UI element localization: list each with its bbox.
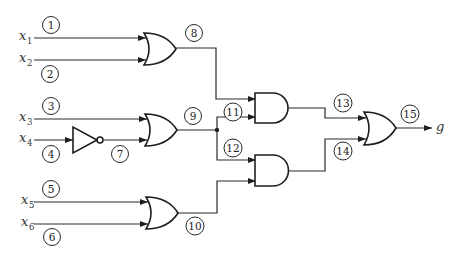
input-label-x1: x 1 <box>19 28 32 46</box>
svg-text:13: 13 <box>336 97 349 109</box>
line-label-5: 5 <box>43 181 60 198</box>
input-label-x3: x 3 <box>19 109 32 127</box>
svg-text:5: 5 <box>29 200 34 210</box>
svg-text:7: 7 <box>117 148 124 160</box>
or-gate-4 <box>364 112 396 145</box>
or-gate-2 <box>145 114 177 146</box>
input-label-x2: x 2 <box>19 50 32 68</box>
svg-text:11: 11 <box>226 106 239 118</box>
svg-text:x: x <box>19 109 27 124</box>
wire-14 <box>287 139 366 171</box>
line-label-9: 9 <box>185 108 202 125</box>
input-label-x5: x 5 <box>21 192 34 210</box>
line-label-15: 15 <box>401 105 419 123</box>
svg-text:3: 3 <box>48 100 55 112</box>
not-gate <box>73 127 97 153</box>
svg-text:3: 3 <box>27 117 32 127</box>
svg-text:14: 14 <box>336 145 350 157</box>
svg-text:9: 9 <box>190 110 197 122</box>
line-label-3: 3 <box>43 98 60 115</box>
and-gate-2 <box>255 155 289 186</box>
svg-text:6: 6 <box>29 222 34 232</box>
line-label-13: 13 <box>334 94 352 112</box>
wire-10 <box>177 181 256 213</box>
svg-text:6: 6 <box>49 231 56 243</box>
svg-text:15: 15 <box>403 108 416 120</box>
svg-text:x: x <box>19 28 27 43</box>
svg-text:1: 1 <box>48 19 55 31</box>
line-label-10: 10 <box>186 217 204 235</box>
line-label-11: 11 <box>224 103 242 121</box>
svg-text:x: x <box>19 130 27 145</box>
or-gate-3 <box>146 197 178 229</box>
wire-8 <box>175 48 256 99</box>
logic-circuit-diagram: x 1 x 2 x 3 x 4 x 5 x 6 1 2 3 4 5 <box>0 0 458 262</box>
input-label-x6: x 6 <box>21 214 34 232</box>
svg-text:x: x <box>21 214 29 229</box>
svg-text:12: 12 <box>226 142 239 154</box>
line-label-1: 1 <box>43 17 60 34</box>
line-label-12: 12 <box>224 139 242 157</box>
svg-text:8: 8 <box>191 27 198 39</box>
input-label-x4: x 4 <box>19 130 32 148</box>
output-label-g: g <box>436 119 444 134</box>
svg-text:4: 4 <box>27 138 32 148</box>
line-label-8: 8 <box>186 25 203 42</box>
line-label-14: 14 <box>334 142 352 160</box>
line-label-2: 2 <box>42 66 59 83</box>
line-label-6: 6 <box>44 229 61 246</box>
not-bubble <box>97 137 103 143</box>
svg-text:5: 5 <box>48 183 55 195</box>
svg-text:4: 4 <box>48 148 55 160</box>
line-label-4: 4 <box>43 146 60 163</box>
svg-text:x: x <box>19 50 27 65</box>
svg-text:10: 10 <box>188 220 201 232</box>
svg-text:2: 2 <box>47 68 54 80</box>
svg-text:2: 2 <box>27 58 32 68</box>
svg-text:1: 1 <box>27 36 32 46</box>
and-gate-1 <box>255 93 288 123</box>
wire-13 <box>287 108 366 118</box>
or-gate-1 <box>144 33 176 65</box>
line-label-7: 7 <box>112 146 129 163</box>
svg-text:x: x <box>21 192 29 207</box>
